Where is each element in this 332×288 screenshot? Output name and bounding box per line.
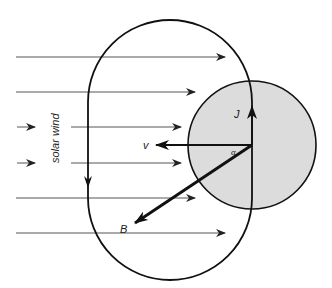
j-label: J (233, 108, 240, 120)
alpha-label: α (231, 148, 236, 157)
b-label: B (120, 223, 127, 235)
magnetosphere-current-diagram: solar wind J v B α (0, 0, 332, 288)
v-label: v (143, 139, 150, 151)
solar-wind-label: solar wind (49, 113, 61, 163)
